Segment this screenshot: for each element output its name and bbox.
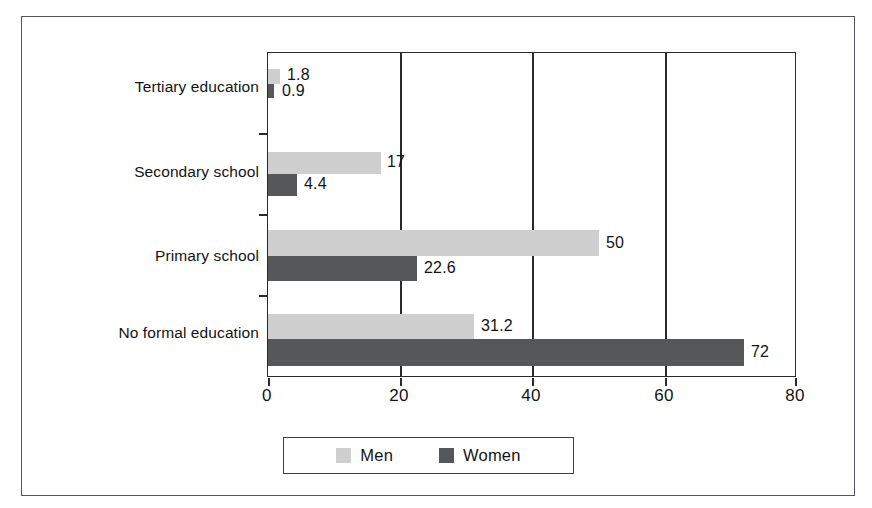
legend-swatch-women-icon (439, 448, 454, 463)
y-tick-2 (259, 214, 268, 216)
legend-swatch-men-icon (336, 448, 351, 463)
bar-tertiary-men (268, 69, 280, 84)
x-tick-20 (400, 378, 402, 386)
x-tick-0 (268, 378, 270, 386)
bar-label-primary-women: 22.6 (424, 259, 456, 277)
bar-label-secondary-women: 4.4 (304, 175, 327, 193)
y-label-secondary-school: Secondary school (134, 163, 259, 181)
bar-label-tertiary-women: 0.9 (282, 82, 305, 100)
chart-legend: Men Women (283, 437, 574, 474)
bar-secondary-women (268, 174, 297, 196)
bar-tertiary-women (268, 84, 274, 98)
bar-label-noformal-women: 72 (751, 343, 769, 361)
bar-label-secondary-men: 17 (387, 153, 405, 171)
chart-figure: Tertiary education Secondary school Prim… (0, 0, 872, 508)
x-tick-60 (665, 378, 667, 386)
plot-area: 1.8 0.9 17 4.4 50 22.6 31.2 72 (267, 52, 796, 377)
bar-primary-women (268, 256, 417, 281)
legend-entry-women: Women (439, 446, 521, 465)
y-label-no-formal-education: No formal education (118, 324, 259, 342)
legend-label-men: Men (360, 446, 393, 465)
bar-noformal-men (268, 314, 474, 339)
bar-secondary-men (268, 152, 381, 174)
x-tick-label-80: 80 (785, 386, 805, 406)
x-tick-label-40: 40 (521, 386, 541, 406)
x-tick-label-60: 60 (654, 386, 674, 406)
y-tick-1 (259, 133, 268, 135)
gridline-60 (665, 53, 667, 376)
legend-entry-men: Men (336, 446, 393, 465)
x-tick-label-0: 0 (262, 386, 272, 406)
x-tick-80 (795, 378, 797, 386)
y-label-tertiary-education: Tertiary education (135, 78, 259, 96)
y-label-primary-school: Primary school (155, 247, 259, 265)
legend-label-women: Women (463, 446, 521, 465)
y-axis-category-labels: Tertiary education Secondary school Prim… (0, 52, 259, 377)
bar-label-noformal-men: 31.2 (481, 317, 513, 335)
x-tick-label-20: 20 (389, 386, 409, 406)
bar-noformal-women (268, 339, 744, 366)
gridline-40 (532, 53, 534, 376)
y-tick-3 (259, 295, 268, 297)
bar-label-primary-men: 50 (606, 234, 624, 252)
x-tick-40 (532, 378, 534, 386)
bar-primary-men (268, 230, 599, 256)
